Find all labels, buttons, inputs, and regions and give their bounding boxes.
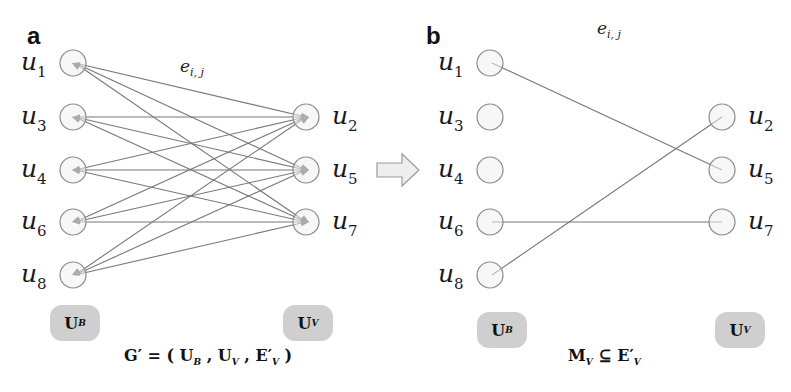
panel-a-set-ub: UB <box>50 305 100 341</box>
set-base: U <box>298 314 312 333</box>
set-sub: V <box>743 325 750 335</box>
node-label-u2: u2 <box>332 103 358 134</box>
node-label-u8: u8 <box>438 261 464 292</box>
node-label-sub: 4 <box>454 170 464 188</box>
edge-label-base: e <box>180 56 190 76</box>
node-label-base: u <box>748 154 764 183</box>
edge-u8-u2 <box>492 117 722 275</box>
node-label-sub: 1 <box>454 63 464 81</box>
bipartite-matching-figure: a ei, j u1u3u4u6u8u2u5u7 UB UV G′ = ( UB… <box>0 0 791 392</box>
formula-m: MV ⊆ E′V <box>568 346 641 365</box>
set-base: U <box>64 314 78 333</box>
edge-u8-u2 <box>75 117 306 275</box>
node-u1 <box>477 50 503 76</box>
panel-a-set-uv: UV <box>283 305 333 341</box>
panel-b-letter: b <box>426 24 441 48</box>
node-label-base: u <box>438 259 454 288</box>
node-label-u6: u6 <box>21 208 47 239</box>
node-label-sub: 3 <box>37 117 47 135</box>
node-label-sub: 4 <box>37 170 47 188</box>
node-u2 <box>293 104 319 130</box>
panel-a-edge-label: ei, j <box>180 58 204 78</box>
node-u8 <box>60 262 86 288</box>
node-label-base: u <box>438 101 454 130</box>
node-label-u5: u5 <box>332 156 358 187</box>
node-label-base: u <box>21 47 37 76</box>
node-label-u4: u4 <box>438 156 464 187</box>
node-label-u1: u1 <box>438 49 464 80</box>
panel-a-letter: a <box>27 24 40 48</box>
node-label-u2: u2 <box>748 103 774 134</box>
panel-a-formula: G′ = ( UB , UV , E′V ) <box>124 346 292 367</box>
panel-b-edge-label: ei, j <box>597 20 621 40</box>
node-u4 <box>477 157 503 183</box>
node-label-sub: 5 <box>764 170 774 188</box>
node-label-u6: u6 <box>438 208 464 239</box>
node-u5 <box>293 157 319 183</box>
node-u4 <box>60 157 86 183</box>
node-u8 <box>477 262 503 288</box>
node-u7 <box>709 209 735 235</box>
panel-b-nodes <box>477 50 735 288</box>
node-label-sub: 8 <box>454 275 464 293</box>
panel-a-edges <box>72 62 309 275</box>
set-sub: B <box>505 325 513 335</box>
node-label-u5: u5 <box>748 156 774 187</box>
node-label-sub: 7 <box>348 222 358 240</box>
node-label-sub: 1 <box>37 63 47 81</box>
node-u7 <box>293 209 319 235</box>
panel-b-formula: MV ⊆ E′V <box>568 346 641 367</box>
node-label-base: u <box>332 206 348 235</box>
node-label-base: u <box>748 206 764 235</box>
node-label-u4: u4 <box>21 156 47 187</box>
node-u5 <box>709 157 735 183</box>
node-label-base: u <box>21 259 37 288</box>
node-u2 <box>709 104 735 130</box>
node-label-base: u <box>332 154 348 183</box>
node-label-sub: 5 <box>348 170 358 188</box>
node-label-base: u <box>438 154 454 183</box>
node-u1 <box>60 50 86 76</box>
formula-g: G′ = ( UB , UV , E′V ) <box>124 346 292 365</box>
set-sub: V <box>311 318 318 328</box>
node-label-sub: 2 <box>348 117 358 135</box>
edge-u1-u5 <box>492 63 722 170</box>
node-label-u7: u7 <box>748 208 774 239</box>
set-sub: B <box>78 318 86 328</box>
node-label-sub: 3 <box>454 117 464 135</box>
edge-label-base: e <box>597 18 607 38</box>
node-label-base: u <box>21 101 37 130</box>
node-label-base: u <box>748 101 764 130</box>
node-label-sub: 7 <box>764 222 774 240</box>
edge-u1-u7 <box>75 63 306 222</box>
edge-u8-u7 <box>75 222 306 275</box>
panel-b-set-ub: UB <box>477 312 527 348</box>
graph-canvas <box>0 0 791 392</box>
node-label-sub: 6 <box>37 222 47 240</box>
edge-label-sub: i, j <box>190 66 204 79</box>
node-label-u1: u1 <box>21 49 47 80</box>
node-u3 <box>477 104 503 130</box>
node-label-base: u <box>21 206 37 235</box>
node-label-base: u <box>332 101 348 130</box>
node-label-sub: 6 <box>454 222 464 240</box>
node-u6 <box>477 209 503 235</box>
node-u6 <box>60 209 86 235</box>
node-label-u7: u7 <box>332 208 358 239</box>
node-label-u3: u3 <box>438 103 464 134</box>
panel-b-edges <box>492 63 722 275</box>
set-base: U <box>730 321 744 340</box>
node-label-sub: 8 <box>37 275 47 293</box>
set-base: U <box>491 321 505 340</box>
transition-arrow-icon <box>377 154 419 186</box>
node-label-base: u <box>438 206 454 235</box>
node-label-sub: 2 <box>764 117 774 135</box>
node-label-base: u <box>438 47 454 76</box>
node-label-u8: u8 <box>21 261 47 292</box>
panel-b-set-uv: UV <box>715 312 765 348</box>
node-label-base: u <box>21 154 37 183</box>
node-u3 <box>60 104 86 130</box>
edge-label-sub: i, j <box>607 28 621 41</box>
node-label-u3: u3 <box>21 103 47 134</box>
